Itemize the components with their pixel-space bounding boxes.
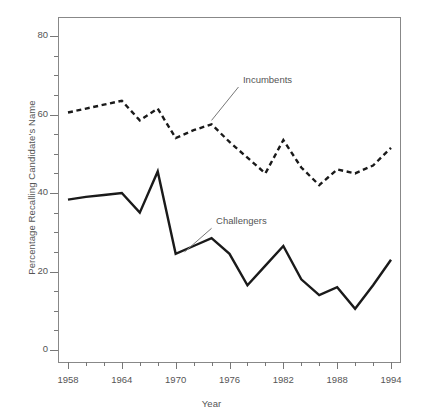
x-tick-label: 1982 [263,374,303,385]
x-axis-title: Year [0,398,423,409]
series-label-incumbents: Incumbents [243,74,292,85]
axis-ticks [50,37,392,370]
data-series [68,101,391,309]
x-tick-label: 1994 [371,374,411,385]
y-tick-label: 40 [18,186,48,197]
series-line-incumbents [68,101,391,185]
y-tick-label: 80 [18,29,48,40]
y-tick-label: 20 [18,265,48,276]
x-tick-label: 1958 [48,374,88,385]
plot-frame [59,18,401,363]
x-tick-label: 1964 [102,374,142,385]
chart-figure: Percentage Recalling Candidate's Name Ye… [0,0,423,419]
y-tick-label: 0 [18,343,48,354]
chart-plot-area [0,0,423,419]
annotation-leader-lines [185,87,239,252]
series-label-challengers: Challengers [216,215,267,226]
x-tick-label: 1976 [210,374,250,385]
series-line-challengers [68,171,391,308]
x-tick-label: 1988 [317,374,357,385]
y-tick-label: 60 [18,108,48,119]
x-tick-label: 1970 [156,374,196,385]
